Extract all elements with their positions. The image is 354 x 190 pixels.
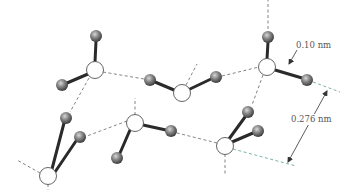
hbond-distance-arrow — [288, 91, 327, 162]
reference-line-top — [313, 82, 340, 92]
bond-w1-h2 — [67, 74, 88, 83]
bond-w1-h1 — [95, 41, 96, 62]
bond-w5-h2 — [143, 125, 166, 130]
water-hbond-diagram: 0.10 nm 0.276 nm — [0, 0, 354, 190]
hydrogen-atom — [242, 106, 254, 118]
oxygen-atom — [40, 168, 57, 185]
bond-w6-h2 — [232, 133, 253, 142]
hydrogen-atom — [111, 152, 123, 164]
bond-w3-h2 — [275, 70, 302, 78]
hydrogen-atom — [74, 131, 86, 143]
hbond-w5-w4h — [87, 121, 127, 136]
hbond-w2-up — [186, 64, 197, 85]
bond-w2-h1 — [155, 82, 174, 90]
oxygen-atom — [87, 62, 104, 79]
hbond-w1-w4h — [70, 78, 89, 112]
bond-length-label: 0.10 nm — [296, 40, 331, 50]
bond-w6-h1 — [229, 117, 245, 139]
hbond-w2-w3 — [222, 67, 259, 76]
hbond-w1-w2 — [103, 72, 144, 79]
hydrogen-atom — [210, 71, 222, 83]
hbond-w4-left — [17, 160, 40, 173]
bond-length-arrow — [289, 50, 297, 64]
bond-w2-h2 — [190, 79, 211, 89]
oxygen-atom — [217, 138, 234, 155]
hydrogen-atom — [252, 125, 264, 137]
hydrogen-atom — [301, 74, 313, 86]
hydrogen-atom — [90, 30, 102, 42]
hbond-distance-label: 0.276 nm — [291, 114, 332, 124]
hydrogen-atom — [262, 31, 274, 43]
oxygen-atom — [174, 85, 191, 102]
reference-line-bottom — [233, 149, 296, 166]
oxygen-atom — [127, 115, 144, 132]
hbond-w6-w5h — [177, 133, 217, 143]
oxygen-atom — [259, 59, 276, 76]
hbond-w3-w6h — [252, 75, 263, 105]
hydrogen-atom — [165, 125, 177, 137]
bond-w5-h1 — [120, 130, 130, 153]
hydrogen-atom — [144, 74, 156, 86]
hydrogen-atom — [56, 79, 68, 91]
bond-w3-h1 — [267, 42, 268, 59]
hydrogen-atom — [60, 112, 72, 124]
